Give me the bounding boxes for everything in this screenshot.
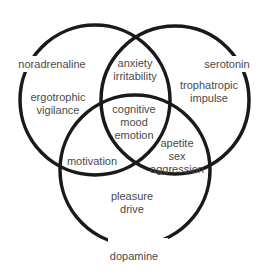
label-noradrenaline: noradrenaline <box>18 58 85 71</box>
label-dopamine: dopamine <box>110 250 158 263</box>
label-serotonin: serotonin <box>204 58 249 71</box>
region-serotonin-dopamine: apetite sex aggression <box>150 137 204 176</box>
region-serotonin-only: trophatropic impulse <box>180 79 238 105</box>
region-dopamine-only: pleasure drive <box>111 190 153 216</box>
venn-diagram: noradrenaline serotonin dopamine ergotro… <box>0 0 270 280</box>
region-noradrenaline-only: ergotrophic vigilance <box>30 91 85 117</box>
region-noradrenaline-dopamine: motivation <box>67 155 117 168</box>
region-noradrenaline-serotonin: anxiety irritability <box>113 57 156 83</box>
label-gap-dopamine <box>108 238 168 250</box>
